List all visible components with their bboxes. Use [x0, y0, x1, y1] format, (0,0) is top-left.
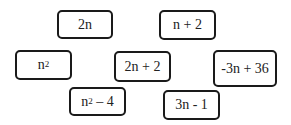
expression-card-n-squared: n2	[15, 50, 72, 80]
expression-text-rest: – 4	[93, 94, 114, 110]
expression-text: -3n + 36	[221, 61, 269, 77]
expression-card-2n-plus-2: 2n + 2	[114, 51, 171, 82]
expression-text: n	[38, 57, 45, 73]
exponent: 2	[88, 96, 93, 106]
expression-card-n-squared-minus-4: n2 – 4	[69, 87, 126, 116]
expression-text: n + 2	[173, 17, 202, 33]
exponent: 2	[45, 59, 50, 69]
expression-card-3n-minus-1: 3n - 1	[163, 90, 220, 120]
expression-text: 3n - 1	[175, 97, 208, 113]
expression-card-2n: 2n	[57, 10, 113, 39]
expression-text: n	[81, 94, 88, 110]
expression-text: 2n	[78, 17, 92, 33]
expression-text: 2n + 2	[125, 59, 161, 75]
expression-card-n-plus-2: n + 2	[159, 10, 216, 40]
expression-card-neg-3n-plus-36: -3n + 36	[213, 50, 277, 87]
